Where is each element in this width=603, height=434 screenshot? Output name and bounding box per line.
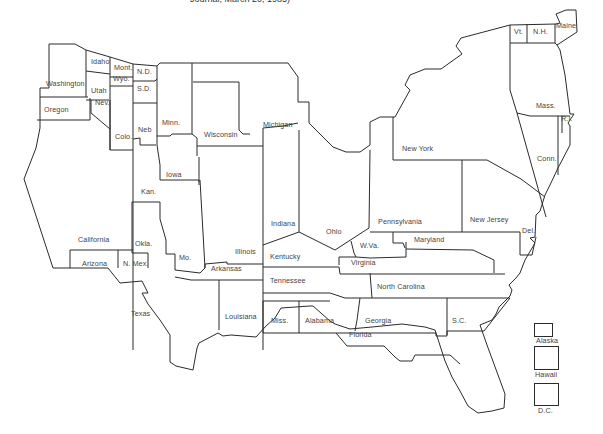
state-label-nh[interactable]: N.H. xyxy=(533,28,548,36)
alaska-box[interactable] xyxy=(534,323,553,337)
state-label-washington[interactable]: Washington xyxy=(46,80,85,88)
state-label-ri[interactable]: R.I. xyxy=(561,115,573,123)
hawaii-box[interactable] xyxy=(534,346,559,370)
state-label-california[interactable]: California xyxy=(78,236,109,244)
state-label-indiana[interactable]: Indiana xyxy=(271,220,295,228)
state-label-oregon[interactable]: Oregon xyxy=(44,106,69,114)
state-label-conn[interactable]: Conn. xyxy=(537,155,557,163)
state-label-mass[interactable]: Mass. xyxy=(536,102,556,110)
state-label-michigan[interactable]: Michigan xyxy=(263,121,293,129)
state-label-kentucky[interactable]: Kentucky xyxy=(270,253,300,261)
state-label-mo[interactable]: Mo. xyxy=(179,254,191,262)
state-label-wisconsin[interactable]: Wisconsin xyxy=(204,131,238,139)
state-label-florida[interactable]: Florida xyxy=(349,331,372,339)
state-label-newjersey[interactable]: New Jersey xyxy=(470,216,509,224)
state-label-pennsylvania[interactable]: Pennsylvania xyxy=(378,218,422,226)
state-label-minn[interactable]: Minn. xyxy=(162,119,180,127)
state-label-maine[interactable]: Maine xyxy=(556,22,576,30)
state-label-vt[interactable]: Vt. xyxy=(514,28,523,36)
state-label-idaho[interactable]: Idaho xyxy=(91,58,110,66)
hawaii-label: Hawaii xyxy=(535,371,557,379)
state-label-mont[interactable]: Mont. xyxy=(114,64,132,72)
state-label-newyork[interactable]: New York xyxy=(402,145,433,153)
state-label-maryland[interactable]: Maryland xyxy=(414,236,444,244)
state-label-wva[interactable]: W.Va. xyxy=(360,242,379,250)
state-label-arizona[interactable]: Arizona xyxy=(82,260,107,268)
state-label-ohio[interactable]: Ohio xyxy=(326,228,342,236)
outline-north xyxy=(24,10,577,413)
state-label-georgia[interactable]: Georgia xyxy=(365,317,391,325)
state-label-northcarolina[interactable]: North Carolina xyxy=(377,283,425,291)
state-label-texas[interactable]: Texas xyxy=(131,310,150,318)
state-label-miss[interactable]: Miss. xyxy=(271,317,288,325)
state-label-wyo[interactable]: Wyo. xyxy=(113,75,130,83)
state-label-neb[interactable]: Neb xyxy=(138,126,152,134)
state-label-nmex[interactable]: N. Mex. xyxy=(123,260,148,268)
state-label-alabama[interactable]: Alabama xyxy=(305,317,334,325)
state-label-sc[interactable]: S.C. xyxy=(452,317,466,325)
state-label-del[interactable]: Del. xyxy=(522,227,535,235)
state-label-virginia[interactable]: Virginia xyxy=(351,259,376,267)
state-label-arkansas[interactable]: Arkansas xyxy=(211,265,242,273)
state-label-nd[interactable]: N.D. xyxy=(137,68,152,76)
state-label-illinois[interactable]: Illinois xyxy=(235,248,256,256)
state-label-colo[interactable]: Colo. xyxy=(115,133,132,141)
state-label-utah[interactable]: Utah xyxy=(91,87,107,95)
state-label-kan[interactable]: Kan. xyxy=(141,188,156,196)
state-label-sd[interactable]: S.D. xyxy=(137,85,151,93)
dc-box[interactable] xyxy=(534,383,559,406)
state-label-louisiana[interactable]: Louisiana xyxy=(225,313,257,321)
state-label-tennessee[interactable]: Tennessee xyxy=(270,277,306,285)
dc-label: D.C. xyxy=(538,407,553,415)
state-label-nev[interactable]: Nev. xyxy=(95,99,110,107)
state-label-iowa[interactable]: Iowa xyxy=(166,171,182,179)
state-label-okla[interactable]: Okla. xyxy=(135,240,152,248)
alaska-label: Alaska xyxy=(536,337,558,345)
